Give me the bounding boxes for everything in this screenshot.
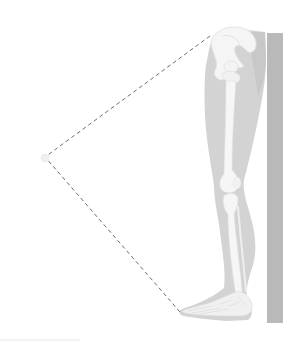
bottom-edge-strip	[0, 339, 80, 341]
leg-diagram	[0, 0, 303, 343]
vertex-point-marker	[41, 154, 49, 162]
wall-bar	[267, 33, 283, 323]
dashed-angle-path	[45, 36, 210, 312]
patella-bone	[233, 177, 241, 189]
